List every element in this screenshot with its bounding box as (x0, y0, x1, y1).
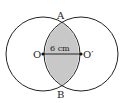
intersecting-circles-diagram: A B O O′ 6 cm (0, 0, 124, 103)
label-o: O (33, 49, 41, 60)
label-a: A (56, 10, 65, 21)
label-b: B (57, 89, 64, 100)
point-o (41, 52, 44, 55)
label-distance: 6 cm (50, 44, 70, 53)
label-o-prime: O′ (83, 49, 94, 60)
